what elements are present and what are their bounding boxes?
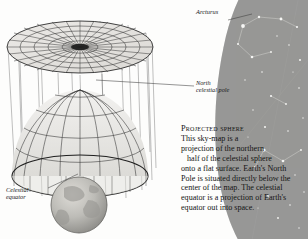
projected-flat-disc [7,21,153,73]
figure-canvas: Arcturus North celestial pole Celestial … [0,0,308,239]
caption-line-7: equator is a projection of Earth's [181,193,307,203]
caption-line-5: Pole is situated directly below the [181,174,307,184]
leader-ncp [96,80,194,86]
label-arcturus-text: Arcturus [196,8,218,15]
caption-line-4: onto a flat surface. Earth's North [181,164,307,174]
label-arcturus: Arcturus [196,8,218,15]
label-celeq-line2: equator [6,193,28,200]
north-celestial-pole-hub [71,44,89,50]
caption-line-2: projection of the northern [181,144,307,154]
label-ncp-line2: celestial pole [196,86,229,93]
caption-line-8: equator out into space. [181,203,307,213]
earth-globe [51,177,107,233]
label-ncp-line1: North [196,79,211,86]
label-celestial-equator: Celestial equator [6,186,28,200]
caption-line-3: half of the celestial sphere [181,154,307,164]
caption-block: Projected sphere This sky-map is a proje… [181,124,307,213]
label-celeq-line1: Celestial [6,186,28,193]
caption-line-6: center of the map. The celestial [181,183,307,193]
caption-heading: Projected sphere [181,124,307,134]
caption-line-1: This sky-map is a [181,134,307,144]
label-north-celestial-pole: North celestial pole [196,79,229,93]
leader-arcturus [228,14,252,20]
